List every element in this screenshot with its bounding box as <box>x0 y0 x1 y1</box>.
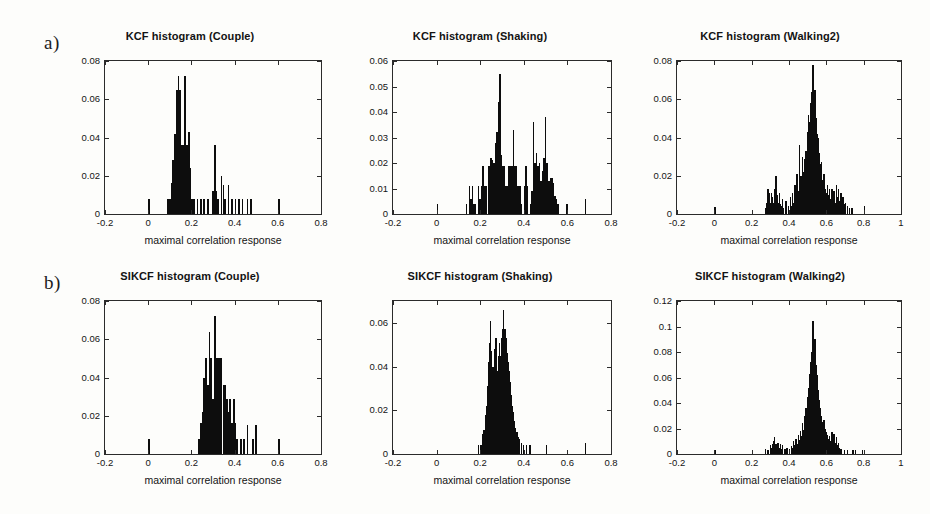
histogram-bar <box>203 199 205 214</box>
x-tick-top <box>789 301 790 305</box>
chart-title: KCF histogram (Shaking) <box>330 30 630 42</box>
y-tick <box>105 339 109 340</box>
histogram-bars <box>105 61 321 214</box>
chart-title: KCF histogram (Couple) <box>40 30 340 42</box>
x-tick-label: 0.8 <box>314 458 327 468</box>
histogram-bar <box>852 450 853 454</box>
y-tick <box>105 378 109 379</box>
histogram-bar <box>557 204 559 214</box>
y-tick-label: 0.06 <box>654 373 673 383</box>
x-tick-label: 0 <box>434 218 439 228</box>
x-tick <box>524 450 525 454</box>
x-tick-label: 0.6 <box>820 458 833 468</box>
x-tick-top <box>105 61 106 65</box>
y-tick-right <box>607 214 611 215</box>
y-tick <box>393 138 397 139</box>
plot-axes: 00.020.040.060.08-0.200.20.40.60.8 <box>104 60 322 215</box>
histogram-bar <box>255 425 257 454</box>
y-tick <box>105 416 109 417</box>
x-tick-top <box>714 61 715 65</box>
histogram-bars <box>677 61 901 214</box>
x-tick-label: 0.8 <box>857 218 870 228</box>
histogram-bar <box>485 186 487 214</box>
chart-panel-sikcf-shaking: SIKCF histogram (Shaking) 00.020.040.06-… <box>330 266 630 506</box>
y-tick-right <box>317 214 321 215</box>
x-tick <box>714 450 715 454</box>
x-tick <box>105 450 106 454</box>
histogram-bar <box>526 445 527 454</box>
chart-title: SIKCF histogram (Walking2) <box>620 270 920 282</box>
y-tick-label: 0.04 <box>370 362 389 372</box>
x-tick <box>393 210 394 214</box>
x-tick-label: -0.2 <box>669 458 685 468</box>
y-tick <box>105 176 109 177</box>
x-tick-label: 0.8 <box>314 218 327 228</box>
x-tick-top <box>480 301 481 305</box>
y-tick-right <box>897 352 901 353</box>
histogram-bars <box>393 61 611 214</box>
y-tick-label: 0.08 <box>82 56 101 66</box>
chart-panel-kcf-walking2: KCF histogram (Walking2) 00.020.040.060.… <box>620 26 920 266</box>
x-tick-top <box>480 61 481 65</box>
x-tick <box>677 450 678 454</box>
x-tick-top <box>901 301 902 305</box>
y-tick-label: 0.08 <box>654 347 673 357</box>
histogram-bar <box>784 449 785 454</box>
x-tick <box>524 210 525 214</box>
y-tick-right <box>897 138 901 139</box>
x-tick-top <box>789 61 790 65</box>
chart-panel-kcf-shaking: KCF histogram (Shaking) 00.010.020.030.0… <box>330 26 630 266</box>
histogram-bar <box>518 439 519 454</box>
x-tick-label: 0.6 <box>271 458 284 468</box>
x-tick-label: 0 <box>434 458 439 468</box>
y-tick-label: 0.06 <box>370 318 389 328</box>
x-tick-top <box>567 61 568 65</box>
x-tick-label: 0.4 <box>228 458 241 468</box>
x-tick <box>191 450 192 454</box>
y-tick <box>393 189 397 190</box>
y-tick <box>677 352 681 353</box>
histogram-bar <box>200 199 202 214</box>
x-tick-label: 0.4 <box>517 458 530 468</box>
x-tick-top <box>393 301 394 305</box>
y-tick-right <box>897 176 901 177</box>
y-tick <box>105 454 109 455</box>
x-tick-label: -0.2 <box>385 458 401 468</box>
x-axis-title: maximal correlation response <box>720 234 857 246</box>
histogram-bar <box>851 208 852 214</box>
x-tick-top <box>524 301 525 305</box>
x-tick-label: 0.6 <box>561 218 574 228</box>
y-tick <box>105 138 109 139</box>
y-tick-right <box>897 454 901 455</box>
y-tick <box>393 163 397 164</box>
x-tick-top <box>677 301 678 305</box>
y-tick-right <box>897 214 901 215</box>
x-tick-label: -0.2 <box>385 218 401 228</box>
x-tick-label: 0.8 <box>604 458 617 468</box>
figure-row-a: a) KCF histogram (Couple) 00.020.040.060… <box>0 26 930 266</box>
histogram-bar <box>845 203 846 214</box>
x-tick <box>789 450 790 454</box>
y-tick-right <box>317 176 321 177</box>
x-tick-top <box>611 61 612 65</box>
x-tick-top <box>437 61 438 65</box>
x-tick <box>864 450 865 454</box>
y-tick-right <box>317 99 321 100</box>
y-tick-right <box>897 327 901 328</box>
y-tick-label: 0.02 <box>370 406 389 416</box>
x-axis-title: maximal correlation response <box>433 474 570 486</box>
y-tick-label: 0.06 <box>82 335 101 345</box>
x-tick <box>677 210 678 214</box>
histogram-bar <box>236 439 238 454</box>
histogram-bar <box>197 199 199 214</box>
y-tick-label: 0.12 <box>654 296 673 306</box>
x-tick-top <box>714 301 715 305</box>
y-tick <box>105 214 109 215</box>
x-tick-top <box>321 61 322 65</box>
x-tick-top <box>148 61 149 65</box>
x-tick <box>480 450 481 454</box>
chart-title: SIKCF histogram (Shaking) <box>330 270 630 282</box>
y-tick-right <box>317 416 321 417</box>
histogram-bar <box>521 443 522 454</box>
y-tick <box>677 176 681 177</box>
